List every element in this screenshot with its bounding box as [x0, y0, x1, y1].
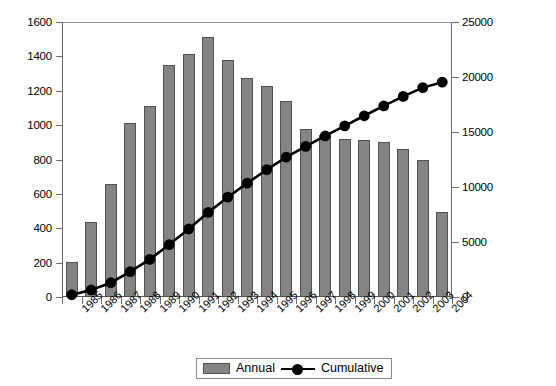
- cumulative-point-1993: [222, 192, 233, 203]
- cumulative-point-1999: [339, 120, 350, 131]
- y-right-tick-label: 5000: [462, 236, 487, 248]
- cumulative-point-1994: [242, 178, 253, 189]
- y-left-tick-label: 1600: [0, 16, 52, 28]
- x-label-1994: 1994: [254, 306, 262, 314]
- x-label-1998: 1998: [332, 306, 340, 314]
- y-left-tick-label: 200: [0, 257, 52, 269]
- x-label-1996: 1996: [293, 306, 301, 314]
- x-label-1988: 1988: [137, 306, 145, 314]
- y-right-tick-label: 20000: [462, 71, 493, 83]
- cumulative-point-2002: [398, 91, 409, 102]
- y-right-tick-label: 25000: [462, 16, 493, 28]
- y-right-tick: [452, 77, 459, 78]
- cumulative-point-1995: [261, 164, 272, 175]
- y-right-tick: [452, 22, 459, 23]
- y-right-tick: [452, 187, 459, 188]
- x-axis-tick: [62, 297, 63, 304]
- legend-marker-cumulative: [281, 363, 315, 374]
- cumulative-line-path: [72, 82, 443, 295]
- cumulative-point-1990: [164, 239, 175, 250]
- cumulative-point-1997: [300, 141, 311, 152]
- cumulative-point-2000: [359, 110, 370, 121]
- cumulative-point-2004: [437, 77, 448, 88]
- y-left-tick-label: 600: [0, 188, 52, 200]
- y-left-tick-label: 1400: [0, 50, 52, 62]
- x-label-1993: 1993: [235, 306, 243, 314]
- y-left-tick-label: 400: [0, 222, 52, 234]
- cumulative-point-2001: [378, 100, 389, 111]
- y-right-tick: [452, 132, 459, 133]
- x-label-1991: 1991: [196, 306, 204, 314]
- cumulative-point-2003: [417, 82, 428, 93]
- x-label-1990: 1990: [176, 306, 184, 314]
- cumulative-point-1985: [66, 289, 77, 300]
- y-left-tick-label: 1200: [0, 85, 52, 97]
- cumulative-point-1996: [281, 152, 292, 163]
- x-label-1997: 1997: [313, 306, 321, 314]
- y-right-tick: [452, 242, 459, 243]
- y-right-tick-label: 10000: [462, 181, 493, 193]
- legend-swatch-annual: [203, 363, 230, 374]
- annual-cumulative-chart: 02004006008001000120014001600 0500010000…: [0, 0, 556, 386]
- x-label-1986: 1986: [98, 306, 106, 314]
- x-label-1992: 1992: [215, 306, 223, 314]
- cumulative-point-1988: [125, 266, 136, 277]
- legend-label-annual: Annual: [236, 361, 275, 375]
- x-label-2000: 2000: [371, 306, 379, 314]
- cumulative-point-1991: [183, 224, 194, 235]
- cumulative-line-series: [62, 22, 452, 297]
- y-left-tick-label: 0: [0, 291, 52, 303]
- cumulative-point-1989: [144, 254, 155, 265]
- x-label-1999: 1999: [352, 306, 360, 314]
- x-label-2001: 2001: [391, 306, 399, 314]
- legend-label-cumulative: Cumulative: [321, 361, 384, 375]
- y-left-tick-label: 1000: [0, 119, 52, 131]
- cumulative-point-1987: [105, 277, 116, 288]
- cumulative-point-1998: [320, 131, 331, 142]
- chart-legend: Annual Cumulative: [196, 358, 392, 379]
- y-right-tick-label: 15000: [462, 126, 493, 138]
- x-label-1987: 1987: [118, 306, 126, 314]
- y-left-tick-label: 800: [0, 154, 52, 166]
- x-label-1985: 1985: [79, 306, 87, 314]
- x-label-1995: 1995: [274, 306, 282, 314]
- x-label-2004: 2004: [449, 306, 457, 314]
- cumulative-point-1992: [203, 207, 214, 218]
- x-label-2002: 2002: [410, 306, 418, 314]
- x-label-1989: 1989: [157, 306, 165, 314]
- x-label-2003: 2003: [430, 306, 438, 314]
